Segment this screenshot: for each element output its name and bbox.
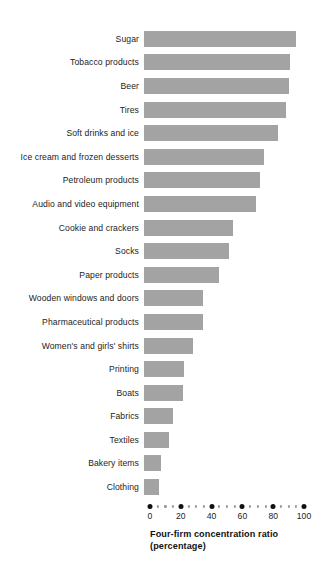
bar-rows-container: SugarTobacco productsBeerTiresSoft drink… [0, 27, 334, 499]
axis-minor-tick-dot [187, 505, 189, 507]
category-label: Wooden windows and doors [0, 293, 144, 303]
bar-row: Textiles [0, 428, 334, 452]
bar-track [144, 287, 334, 311]
bar-track [144, 475, 334, 499]
bar-track [144, 27, 334, 51]
axis-tick-label: 60 [238, 511, 248, 521]
bar-row: Ice cream and frozen desserts [0, 145, 334, 169]
bar [144, 78, 289, 94]
axis-minor-tick-dot [226, 505, 228, 507]
axis-minor-tick-dot [172, 505, 174, 507]
axis-major-tick-dot [148, 504, 153, 509]
bar-row: Printing [0, 357, 334, 381]
bar-track [144, 452, 334, 476]
axis-tick-label: 80 [268, 511, 278, 521]
bar [144, 432, 169, 448]
bar-row: Fabrics [0, 405, 334, 429]
bar-track [144, 169, 334, 193]
axis-minor-tick-dot [195, 505, 197, 507]
category-label: Paper products [0, 270, 144, 280]
category-label: Printing [0, 364, 144, 374]
x-axis-title-line: Four-firm concentration ratio [150, 529, 334, 541]
bar-track [144, 98, 334, 122]
bar-track [144, 74, 334, 98]
bar-row: Audio and video equipment [0, 192, 334, 216]
category-label: Sugar [0, 34, 144, 44]
bar [144, 54, 290, 70]
bar-track [144, 357, 334, 381]
bar-track [144, 381, 334, 405]
axis-minor-tick-dot [249, 505, 251, 507]
category-label: Clothing [0, 482, 144, 492]
axis-major-tick-dot [271, 504, 276, 509]
category-label: Ice cream and frozen desserts [0, 152, 144, 162]
bar [144, 290, 203, 306]
bar [144, 267, 219, 283]
bar-row: Clothing [0, 475, 334, 499]
bar-track [144, 145, 334, 169]
category-label: Beer [0, 81, 144, 91]
bar [144, 31, 296, 47]
category-label: Textiles [0, 435, 144, 445]
axis-major-tick-dot [240, 504, 245, 509]
category-label: Audio and video equipment [0, 199, 144, 209]
axis-tick-label: 40 [207, 511, 217, 521]
bar-row: Sugar [0, 27, 334, 51]
category-label: Tires [0, 105, 144, 115]
bar [144, 338, 193, 354]
axis-minor-tick-dot [280, 505, 282, 507]
x-axis: 020406080100 [150, 504, 304, 514]
axis-major-tick-dot [178, 504, 183, 509]
axis-minor-tick-dot [157, 505, 159, 507]
four-firm-concentration-ratio-chart: SugarTobacco productsBeerTiresSoft drink… [0, 0, 334, 575]
bar-row: Boats [0, 381, 334, 405]
bar [144, 243, 229, 259]
bar-track [144, 51, 334, 75]
bar [144, 102, 286, 118]
category-label: Cookie and crackers [0, 223, 144, 233]
bar-track [144, 428, 334, 452]
axis-minor-tick-dot [264, 505, 266, 507]
category-label: Bakery items [0, 458, 144, 468]
category-label: Soft drinks and ice [0, 128, 144, 138]
bar-row: Socks [0, 239, 334, 263]
bar [144, 314, 203, 330]
bar [144, 125, 278, 141]
bar-row: Soft drinks and ice [0, 121, 334, 145]
axis-minor-tick-dot [257, 505, 259, 507]
bar [144, 455, 161, 471]
bar [144, 220, 233, 236]
bar [144, 149, 264, 165]
bar-row: Bakery items [0, 452, 334, 476]
bar [144, 196, 256, 212]
bar-track [144, 263, 334, 287]
axis-tick-label: 0 [148, 511, 153, 521]
bar-row: Cookie and crackers [0, 216, 334, 240]
category-label: Women's and girls' shirts [0, 341, 144, 351]
axis-tick-label: 100 [297, 511, 311, 521]
bar-track [144, 121, 334, 145]
bar-track [144, 405, 334, 429]
axis-tick-label: 20 [176, 511, 186, 521]
category-label: Boats [0, 388, 144, 398]
bar-track [144, 216, 334, 240]
axis-minor-tick-dot [218, 505, 220, 507]
bar-row: Pharmaceutical products [0, 310, 334, 334]
bar-track [144, 192, 334, 216]
bar [144, 385, 183, 401]
axis-major-tick-dot [209, 504, 214, 509]
axis-minor-tick-dot [288, 505, 290, 507]
category-label: Fabrics [0, 411, 144, 421]
axis-minor-tick-dot [295, 505, 297, 507]
bar-track [144, 239, 334, 263]
x-axis-title: Four-firm concentration ratio(percentage… [150, 529, 334, 552]
bar [144, 408, 173, 424]
bar [144, 172, 260, 188]
bar-row: Beer [0, 74, 334, 98]
axis-minor-tick-dot [164, 505, 166, 507]
category-label: Pharmaceutical products [0, 317, 144, 327]
bar-row: Women's and girls' shirts [0, 334, 334, 358]
category-label: Tobacco products [0, 57, 144, 67]
bar-track [144, 310, 334, 334]
x-axis-title-line: (percentage) [150, 541, 334, 553]
